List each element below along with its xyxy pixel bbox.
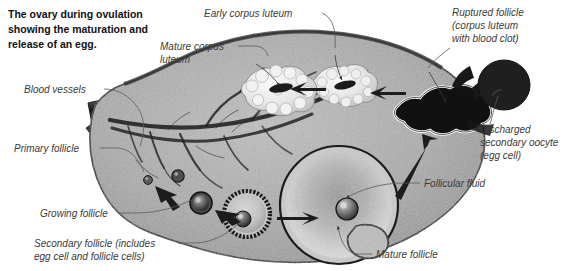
secondary-follicle-label-line2: egg cell and follicle cells) xyxy=(34,251,145,262)
title-line-1: The ovary during ovulation xyxy=(8,8,143,20)
discharged-secondary-oocyte xyxy=(478,60,530,110)
mature-corpus-luteum-label-line2: luteum xyxy=(160,54,190,65)
ruptured-follicle-label-line2: (corpus luteum xyxy=(452,20,518,31)
ovary-ovulation-diagram: The ovary during ovulation showing the m… xyxy=(0,0,584,271)
ruptured-follicle-label-line1: Ruptured follicle xyxy=(452,7,524,18)
label-ruptured-follicle: Ruptured follicle (corpus luteum with bl… xyxy=(428,7,524,68)
page-title: The ovary during ovulation showing the m… xyxy=(8,8,148,50)
discharged-oocyte-label-line3: (egg cell) xyxy=(480,150,521,161)
follicular-fluid-label: Follicular fluid xyxy=(424,178,486,189)
mature-corpus-luteum-label-line1: Mature corpus xyxy=(160,41,224,52)
secondary-follicle-label-line1: Secondary follicle (includes xyxy=(34,238,155,249)
growing-follicle-label: Growing follicle xyxy=(40,208,108,219)
early-corpus-luteum-label: Early corpus luteum xyxy=(204,8,292,19)
title-line-3: release of an egg. xyxy=(8,38,97,50)
growing-follicle xyxy=(190,192,212,214)
primary-follicle-label: Primary follicle xyxy=(14,143,79,154)
discharged-oocyte-label-line1: Discharged xyxy=(480,124,531,135)
mature-follicle xyxy=(280,146,398,264)
title-line-2: showing the maturation and xyxy=(8,23,148,35)
mature-follicle-oocyte xyxy=(336,198,358,220)
ovary-cross-section xyxy=(86,32,498,265)
discharged-oocyte-label-line2: secondary oocyte xyxy=(480,137,559,148)
mature-follicle-label: Mature follicle xyxy=(376,249,438,260)
ruptured-follicle-label-line3: with blood clot) xyxy=(452,33,519,44)
blood-vessels-label: Blood vessels xyxy=(24,84,86,95)
